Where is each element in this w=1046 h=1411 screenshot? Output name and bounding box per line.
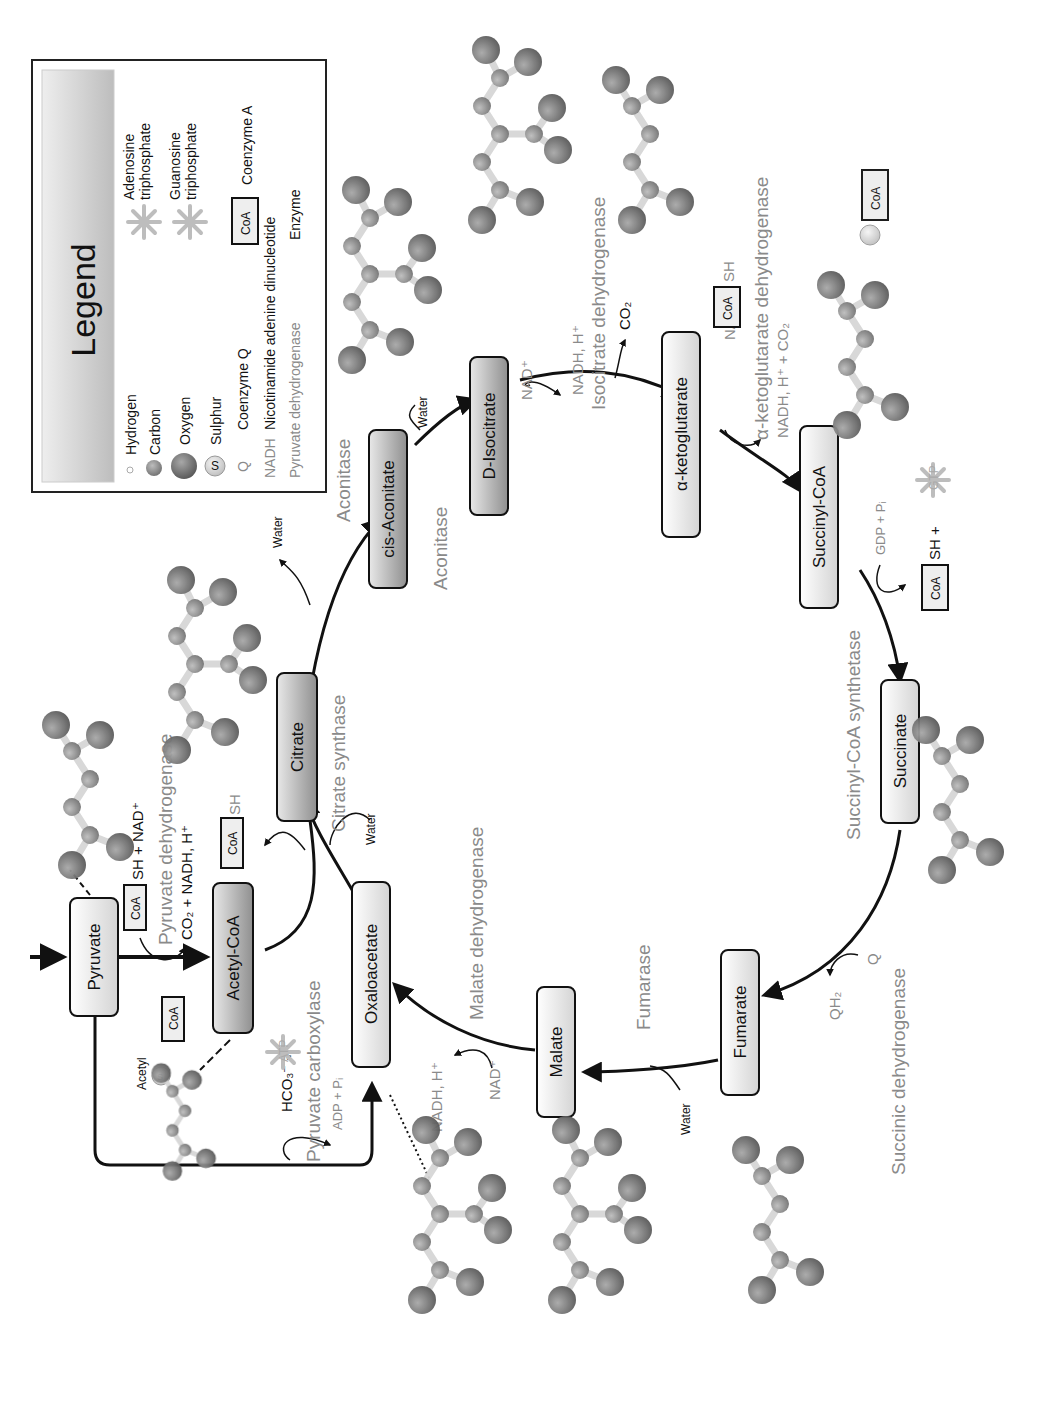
svg-text:Guanosine: Guanosine <box>167 132 183 200</box>
svg-text:Malate: Malate <box>547 1026 566 1077</box>
molecule-succinate <box>912 716 1004 884</box>
enzyme-succinyl-coa-synthetase: Succinyl-CoA synthetase <box>843 630 864 840</box>
svg-text:Hydrogen: Hydrogen <box>123 394 139 455</box>
svg-text:GDP + Pᵢ: GDP + Pᵢ <box>873 502 888 555</box>
molecule-succinyl-coa <box>817 271 909 439</box>
enzyme-isocitrate-dehydrogenase: Isocitrate dehydrogenase <box>588 197 609 410</box>
svg-text:CoA: CoA <box>239 212 253 235</box>
svg-text:Acetyl-CoA: Acetyl-CoA <box>224 915 243 1001</box>
node-a-ketoglutarate[interactable]: α-ketoglutarate <box>662 332 700 537</box>
svg-text:α-ketoglutarate: α-ketoglutarate <box>672 377 691 491</box>
svg-text:Oxaloacetate: Oxaloacetate <box>362 924 381 1024</box>
svg-text:SH: SH <box>226 794 243 815</box>
svg-text:Coenzyme Q: Coenzyme Q <box>235 348 251 430</box>
svg-text:cis-Aconitate: cis-Aconitate <box>379 460 398 557</box>
svg-text:Succinyl-CoA: Succinyl-CoA <box>810 465 829 568</box>
node-oxaloacetate[interactable]: Oxaloacetate <box>352 882 390 1067</box>
svg-text:SH +: SH + <box>926 526 943 560</box>
node-pyruvate[interactable]: Pyruvate <box>70 898 118 1016</box>
legend-item-carbon: Carbon <box>146 409 163 476</box>
svg-text:Fumarate: Fumarate <box>731 986 750 1059</box>
svg-text:Succinate: Succinate <box>891 714 910 789</box>
svg-text:NADH, H⁺ + CO₂: NADH, H⁺ + CO₂ <box>774 323 791 438</box>
molecule-pyruvate <box>42 711 134 879</box>
svg-text:Water: Water <box>679 1103 693 1135</box>
svg-text:Citrate: Citrate <box>288 722 307 772</box>
molecule-oxaloacetate <box>408 1116 512 1314</box>
svg-text:S: S <box>211 459 219 473</box>
legend-title: Legend <box>64 243 102 356</box>
svg-text:Acetyl: Acetyl <box>135 1057 149 1090</box>
svg-text:Adenosine: Adenosine <box>121 134 137 200</box>
svg-text:Sulphur: Sulphur <box>208 396 224 445</box>
svg-text:Nicotinamide adenine dinucleot: Nicotinamide adenine dinucleotide <box>262 217 278 430</box>
svg-text:GTP: GTP <box>927 465 941 490</box>
enzyme-aconitase-2: Aconitase <box>430 507 451 590</box>
node-succinyl-coa[interactable]: Succinyl-CoA <box>800 426 838 608</box>
node-citrate[interactable]: Citrate <box>277 673 317 821</box>
svg-text:triphosphate: triphosphate <box>137 123 153 200</box>
svg-text:Carbon: Carbon <box>147 409 163 455</box>
molecule-d-isocitrate <box>468 36 572 234</box>
svg-text:ADP + Pᵢ: ADP + Pᵢ <box>330 1078 345 1130</box>
svg-text:NAD⁺: NAD⁺ <box>486 1060 503 1100</box>
svg-text:CoA: CoA <box>226 832 240 855</box>
svg-text:Q: Q <box>864 953 881 965</box>
molecule-acetyl <box>151 1063 215 1181</box>
node-fumarate[interactable]: Fumarate <box>721 950 759 1095</box>
citric-acid-cycle-diagram: Legend Hydrogen Carbon Oxygen S Sulphur … <box>0 0 1046 1411</box>
legend-item-sulphur: S Sulphur <box>205 396 225 476</box>
svg-text:Pyruvate: Pyruvate <box>85 923 104 990</box>
enzyme-succinic-dehydrogenase: Succinic dehydrogenase <box>888 968 909 1175</box>
svg-text:triphosphate: triphosphate <box>183 123 199 200</box>
enzyme-malate-dehydrogenase: Malate dehydrogenase <box>466 827 487 1020</box>
svg-text:Q: Q <box>235 461 251 472</box>
svg-text:CoA: CoA <box>929 577 943 600</box>
enzyme-pyruvate-dehydrogenase: Pyruvate dehydrogenase <box>155 734 176 945</box>
svg-text:D-Isocitrate: D-Isocitrate <box>480 393 499 480</box>
svg-text:Oxygen: Oxygen <box>177 397 193 445</box>
molecule-a-ketoglutarate <box>602 66 694 234</box>
svg-text:QH₂: QH₂ <box>826 992 843 1021</box>
legend-item-enzyme: Pyruvate dehydrogenase Enzyme <box>287 189 303 478</box>
svg-text:Pyruvate dehydrogenase: Pyruvate dehydrogenase <box>287 322 303 478</box>
svg-text:Water: Water <box>271 516 285 548</box>
legend-panel: Legend Hydrogen Carbon Oxygen S Sulphur … <box>32 60 326 492</box>
svg-text:Water: Water <box>364 813 378 845</box>
node-succinate[interactable]: Succinate <box>881 680 919 823</box>
node-cis-aconitate[interactable]: cis-Aconitate <box>369 430 407 588</box>
svg-text:ATP: ATP <box>277 1040 291 1062</box>
node-acetyl-coa[interactable]: Acetyl-CoA <box>213 883 253 1033</box>
svg-text:CO₂ + NADH, H⁺: CO₂ + NADH, H⁺ <box>178 825 195 940</box>
enzyme-aconitase-1: Aconitase <box>333 439 354 522</box>
svg-text:CoA: CoA <box>129 897 143 920</box>
node-d-isocitrate[interactable]: D-Isocitrate <box>470 357 508 515</box>
svg-text:Water: Water <box>416 396 430 428</box>
enzyme-citrate-synthase: Citrate synthase <box>328 695 349 832</box>
svg-text:SH: SH <box>720 261 737 282</box>
molecule-cis-aconitate <box>338 176 442 374</box>
svg-text:CoA: CoA <box>721 297 735 320</box>
svg-text:CoA: CoA <box>167 1007 181 1030</box>
svg-text:NAD⁺: NAD⁺ <box>518 360 535 400</box>
enzyme-pyruvate-carboxylase: Pyruvate carboxylase <box>303 980 324 1162</box>
svg-text:Enzyme: Enzyme <box>287 189 303 240</box>
svg-text:Coenzyme A: Coenzyme A <box>239 105 255 185</box>
molecule-malate <box>548 1116 652 1314</box>
svg-text:NADH: NADH <box>262 438 278 478</box>
svg-text:CO₂: CO₂ <box>616 302 633 331</box>
enzyme-a-ketoglutarate-dehydrogenase: α-ketoglutarate dehydrogenase <box>751 177 772 440</box>
enzyme-fumarase: Fumarase <box>633 944 654 1030</box>
node-malate[interactable]: Malate <box>537 987 575 1117</box>
legend-item-nadh: NADH Nicotinamide adenine dinucleotide <box>262 217 278 478</box>
molecule-fumarate <box>732 1136 824 1304</box>
molecule-citrate <box>163 566 267 764</box>
svg-text:NADH, H⁺: NADH, H⁺ <box>569 325 586 395</box>
svg-text:CoA: CoA <box>869 187 883 210</box>
